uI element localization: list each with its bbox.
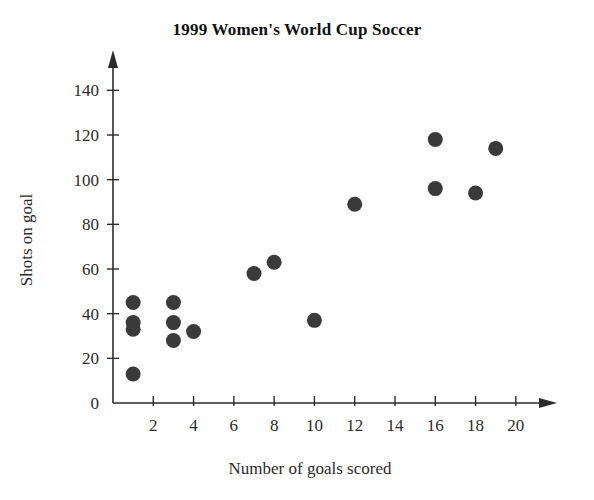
data-point: [488, 141, 503, 156]
x-axis-arrow-icon: [539, 398, 557, 408]
y-tick-label: 60: [82, 260, 99, 279]
x-tick-label: 12: [346, 416, 363, 435]
x-tick-label: 2: [149, 416, 158, 435]
x-tick-label: 14: [387, 416, 405, 435]
x-tick-label: 8: [270, 416, 279, 435]
data-point: [166, 333, 181, 348]
data-point: [166, 315, 181, 330]
x-tick-label: 10: [306, 416, 323, 435]
data-point: [428, 132, 443, 147]
data-point: [186, 324, 201, 339]
data-point: [267, 255, 282, 270]
x-tick-label: 18: [467, 416, 484, 435]
data-point: [166, 295, 181, 310]
y-tick-label: 120: [74, 126, 100, 145]
data-point: [307, 313, 322, 328]
y-tick-label: 80: [82, 215, 99, 234]
y-tick-label: 100: [74, 171, 100, 190]
x-tick-label: 4: [189, 416, 198, 435]
data-point: [126, 295, 141, 310]
x-axis-title: Number of goals scored: [229, 459, 392, 478]
data-points-group: [126, 132, 504, 382]
axes-group: [108, 50, 557, 408]
scatter-plot: 020406080100120140 2468101214161820 Numb…: [0, 0, 594, 500]
y-tick-label: 40: [82, 305, 99, 324]
data-point: [126, 366, 141, 381]
y-tick-label: 20: [82, 349, 99, 368]
y-axis-arrow-icon: [108, 50, 118, 68]
y-tick-label: 140: [74, 81, 100, 100]
x-tick-label: 20: [507, 416, 524, 435]
x-tick-label: 6: [230, 416, 239, 435]
y-axis-title: Shots on goal: [17, 193, 36, 286]
x-tick-label: 16: [427, 416, 444, 435]
data-point: [428, 181, 443, 196]
data-point: [247, 266, 262, 281]
y-ticks-group: 020406080100120140: [74, 81, 120, 413]
data-point: [468, 186, 483, 201]
data-point: [126, 322, 141, 337]
y-tick-label: 0: [91, 394, 100, 413]
data-point: [347, 197, 362, 212]
chart-page: 1999 Women's World Cup Soccer 0204060801…: [0, 0, 594, 500]
x-ticks-group: 2468101214161820: [149, 396, 524, 435]
